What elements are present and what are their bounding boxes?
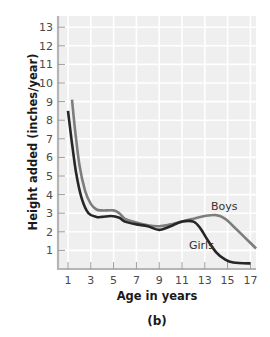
x-axis-title: Age in years xyxy=(117,289,198,303)
series-label-boys: Boys xyxy=(211,200,238,213)
y-tick-label: 3 xyxy=(46,207,53,220)
y-tick-label: 5 xyxy=(46,170,53,183)
y-tick-label: 1 xyxy=(46,244,53,257)
y-tick-label: 9 xyxy=(46,96,53,109)
x-tick-label: 17 xyxy=(243,274,257,287)
y-tick-label: 11 xyxy=(39,58,53,71)
x-tick-label: 7 xyxy=(133,274,140,287)
x-tick-label: 13 xyxy=(198,274,212,287)
y-tick-label: 12 xyxy=(39,40,53,53)
y-tick-label: 6 xyxy=(46,151,53,164)
x-tick-label: 1 xyxy=(65,274,72,287)
panel-label: (b) xyxy=(147,314,167,328)
y-tick-label: 7 xyxy=(46,133,53,146)
x-tick-label: 11 xyxy=(175,274,189,287)
y-axis-title: Height added (inches/year) xyxy=(26,54,40,231)
x-tick-label: 15 xyxy=(221,274,235,287)
growth-velocity-chart: 12345678910111213 1357911131517 Boys Gir… xyxy=(0,0,270,337)
y-tick-label: 10 xyxy=(39,77,53,90)
x-tick-label: 5 xyxy=(110,274,117,287)
series-label-girls: Girls xyxy=(189,239,214,252)
y-tick-label: 8 xyxy=(46,114,53,127)
y-tick-label: 13 xyxy=(39,21,53,34)
x-tick-label: 3 xyxy=(87,274,94,287)
y-tick-label: 4 xyxy=(46,189,53,202)
y-tick-label: 2 xyxy=(46,226,53,239)
x-tick-label: 9 xyxy=(156,274,163,287)
